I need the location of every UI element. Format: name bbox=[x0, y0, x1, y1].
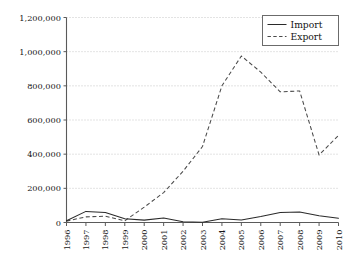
x-axis-tick-label: 2004 bbox=[217, 230, 227, 251]
x-axis-tick-label: 2002 bbox=[178, 230, 188, 251]
series-line-export bbox=[67, 56, 339, 221]
y-axis-tick-labels-group: 0200,000400,000600,000800,0001,000,0001,… bbox=[19, 13, 61, 228]
x-axis-tick-label: 1999 bbox=[120, 230, 130, 251]
x-axis-tick-label: 2010 bbox=[334, 230, 344, 251]
legend-label-export: Export bbox=[291, 31, 323, 42]
y-axis-tick-label: 200,000 bbox=[27, 183, 61, 193]
x-axis-tick-labels-group: 1996199719981999200020012002200320042005… bbox=[62, 230, 344, 251]
chart-figure: 0200,000400,000600,000800,0001,000,0001,… bbox=[0, 0, 348, 266]
x-axis-tick-label: 2000 bbox=[139, 230, 149, 251]
x-axis-tick-label: 2009 bbox=[314, 230, 324, 251]
x-axis-tick-label: 2006 bbox=[256, 230, 266, 251]
y-axis-tick-label: 0 bbox=[56, 218, 61, 228]
x-axis-tick-label: 2007 bbox=[275, 230, 285, 251]
x-axis-tick-label: 2008 bbox=[295, 230, 305, 251]
chart-legend[interactable]: Import Export bbox=[263, 16, 339, 46]
x-axis-tick-label: 1996 bbox=[62, 230, 72, 251]
x-axis-tick-label: 2005 bbox=[236, 230, 246, 251]
line-chart: 0200,000400,000600,000800,0001,000,0001,… bbox=[0, 0, 348, 266]
x-axis-tick-label: 2001 bbox=[159, 230, 169, 251]
x-axis-tick-label: 2003 bbox=[198, 230, 208, 251]
legend-label-import: Import bbox=[291, 19, 323, 30]
y-axis-tick-label: 800,000 bbox=[27, 81, 61, 91]
y-axis-tick-label: 600,000 bbox=[27, 115, 61, 125]
y-axis-tick-label: 1,000,000 bbox=[19, 47, 61, 57]
x-axis-tick-label: 1998 bbox=[100, 230, 110, 251]
y-axis-tick-label: 400,000 bbox=[27, 149, 61, 159]
x-axis-tick-label: 1997 bbox=[81, 230, 91, 251]
y-axis-tick-label: 1,200,000 bbox=[19, 13, 61, 23]
